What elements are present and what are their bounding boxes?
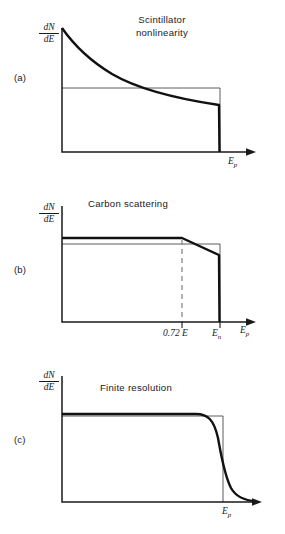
panel-b-y-axis-label: dN dE	[38, 202, 60, 224]
panel-b-ideal-rectangle	[62, 244, 220, 322]
panel-c-axes	[62, 376, 252, 502]
panel-c-x-axis-label-subscript: p	[228, 511, 232, 519]
panel-a: (a) Scintillator nonlinearity dN dE Ep	[0, 0, 285, 178]
panel-b-y-axis-denominator: dE	[38, 214, 60, 225]
panel-c-ideal-rectangle	[62, 416, 223, 502]
panel-b-tick-label-0.72E: 0.72 E	[163, 328, 188, 338]
panel-b-x-axis-label-subscript: p	[246, 330, 250, 338]
panel-c-title: Finite resolution	[100, 382, 230, 395]
panel-a-y-axis-numerator: dN	[38, 22, 60, 33]
panel-b-distorted-curve	[62, 238, 220, 322]
panel-c-x-axis-label: Ep	[222, 506, 231, 519]
panel-c-resolution-curve	[62, 414, 256, 501]
panel-b-title: Carbon scattering	[88, 198, 218, 211]
panel-b-y-axis-numerator: dN	[38, 202, 60, 213]
panel-b: (b) Carbon scattering dN dE 0.72 E En	[0, 178, 285, 356]
panel-a-distorted-curve	[62, 28, 220, 152]
panel-c: (c) Finite resolution dN dE Ep	[0, 356, 285, 534]
panel-a-title: Scintillator nonlinearity	[104, 14, 220, 39]
panel-c-y-axis-denominator: dE	[38, 382, 60, 393]
panel-a-x-axis-label: Ep	[228, 156, 237, 169]
panel-a-x-axis-label-subscript: p	[234, 161, 238, 169]
panel-b-tick-label-En: En	[212, 328, 221, 341]
panel-a-ideal-rectangle	[62, 88, 220, 152]
panel-c-label: (c)	[14, 434, 26, 445]
panel-b-x-axis-label: Ep	[240, 325, 249, 338]
panel-a-y-axis-denominator: dE	[38, 34, 60, 45]
panel-a-x-axis-arrow-icon	[246, 148, 256, 156]
panel-c-y-axis-label: dN dE	[38, 370, 60, 392]
panel-c-x-axis-arrow-icon	[252, 498, 262, 506]
panel-a-y-axis-label: dN dE	[38, 22, 60, 44]
panel-a-label: (a)	[14, 72, 26, 83]
panel-b-tick-label-En-subscript: n	[218, 333, 222, 341]
panel-c-y-axis-numerator: dN	[38, 370, 60, 381]
response-function-figure: (a) Scintillator nonlinearity dN dE Ep (…	[0, 0, 285, 534]
panel-b-label: (b)	[14, 264, 26, 275]
